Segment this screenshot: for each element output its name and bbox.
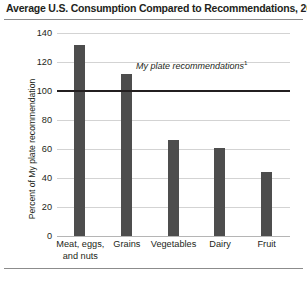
y-tick-label: 100 [37,86,52,96]
chart-title: Average U.S. Consumption Compared to Rec… [6,2,302,14]
x-tick-label: Dairy [209,239,230,251]
chart-figure: Percent of My plate recommendation My pl… [0,20,307,268]
figure-bottom-divider [4,268,303,269]
y-tick-label: 40 [42,173,52,183]
bar [121,74,132,236]
reference-line [57,90,290,91]
y-tick-label: 80 [42,115,52,125]
bar [261,172,272,236]
y-tick-label: 20 [42,202,52,212]
x-tick-label: Vegetables [151,239,196,251]
y-tick-label: 60 [42,144,52,154]
x-tick-label: Meat, eggs, and nuts [56,239,104,262]
x-tick-label: Fruit [258,239,276,251]
reference-line-annotation-text: My plate recommendations [136,61,244,71]
gridline [57,236,290,237]
plot-area: My plate recommendations1 02040608010012… [57,33,290,236]
bar [214,148,225,236]
reference-line-annotation: My plate recommendations1 [136,59,248,71]
gridline [57,120,290,121]
bar [74,45,85,236]
y-tick-label: 0 [47,231,52,241]
gridline [57,33,290,34]
bar [168,140,179,236]
y-axis-title: Percent of My plate recommendation [27,54,37,244]
reference-line-annotation-superscript: 1 [244,59,247,66]
x-tick-label: Grains [113,239,140,251]
y-tick-label: 140 [37,28,52,38]
y-tick-label: 120 [37,57,52,67]
